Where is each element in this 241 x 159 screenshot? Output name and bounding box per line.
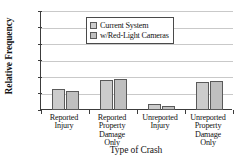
bar [162, 106, 175, 110]
legend-swatch-red-light-cameras [90, 32, 97, 39]
legend-item-current-system: Current System [90, 21, 169, 31]
bar [148, 104, 161, 110]
x-category-label: UnreportedInjury [136, 114, 184, 131]
x-category-label: ReportedPropertyDamageOnly [88, 114, 136, 148]
x-axis-category-labels: ReportedInjuryReportedPropertyDamageOnly… [40, 114, 232, 147]
bar [100, 80, 113, 110]
bar [66, 91, 79, 110]
bar [114, 79, 127, 110]
legend-item-red-light-cameras: w/Red-Light Cameras [90, 31, 169, 41]
legend-label-red-light-cameras: w/Red-Light Cameras [100, 31, 169, 40]
x-category-label-line: Injury [136, 122, 184, 130]
bar [196, 82, 209, 110]
bar [210, 81, 223, 110]
x-tick-mark [233, 110, 234, 114]
legend-label-current-system: Current System [100, 21, 148, 30]
bar-chart: Relative Frequency 0.000.200.400.600.801… [0, 0, 241, 159]
x-axis-title: Type of Crash [40, 145, 232, 155]
y-axis-title: Relative Frequency [4, 8, 14, 104]
x-category-label-line: Injury [40, 122, 88, 130]
legend-swatch-current-system [90, 22, 97, 29]
x-category-label: UnreportedPropertyDamageOnly [184, 114, 232, 148]
legend: Current System w/Red-Light Cameras [86, 17, 174, 44]
bar [52, 89, 65, 110]
x-category-label: ReportedInjury [40, 114, 88, 131]
